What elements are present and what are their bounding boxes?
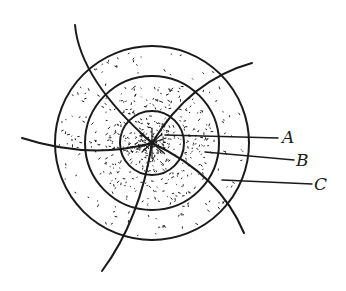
label-b: B	[295, 150, 309, 170]
radial-line-w	[22, 138, 152, 150]
leader-line-c	[222, 180, 312, 184]
radial-line-se	[152, 143, 244, 233]
label-a: A	[280, 127, 294, 147]
label-c: C	[314, 174, 327, 194]
zone-diagram: A B C	[0, 0, 346, 291]
leader-line-a	[165, 135, 278, 138]
